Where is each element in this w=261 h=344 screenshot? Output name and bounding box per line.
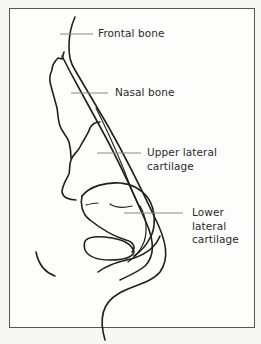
nose-anatomy-illustration	[0, 0, 261, 344]
label-lower-lateral-line2: lateral	[192, 220, 239, 234]
label-lower-lateral-cartilage: Lower lateral cartilage	[192, 206, 239, 247]
label-lower-lateral-line1: Lower	[192, 206, 239, 220]
lower-lateral-cartilage-outline	[82, 183, 154, 256]
label-upper-lateral-line2: cartilage	[147, 160, 217, 174]
label-nasal-bone-text: Nasal bone	[115, 86, 175, 98]
label-nasal-bone: Nasal bone	[115, 86, 175, 100]
upper-lateral-cartilage-edge	[96, 108, 140, 208]
upper-lateral-cartilage-outline	[62, 122, 100, 200]
cheek-curve	[36, 252, 55, 276]
nose-profile-outline	[69, 17, 166, 340]
label-frontal-bone-text: Frontal bone	[98, 27, 165, 39]
label-lower-lateral-line3: cartilage	[192, 233, 239, 247]
alar-dash-1	[86, 203, 98, 205]
alar-dash-2	[110, 204, 132, 207]
label-frontal-bone: Frontal bone	[98, 27, 165, 41]
label-upper-lateral-line1: Upper lateral	[147, 146, 217, 160]
label-upper-lateral-cartilage: Upper lateral cartilage	[147, 146, 217, 173]
